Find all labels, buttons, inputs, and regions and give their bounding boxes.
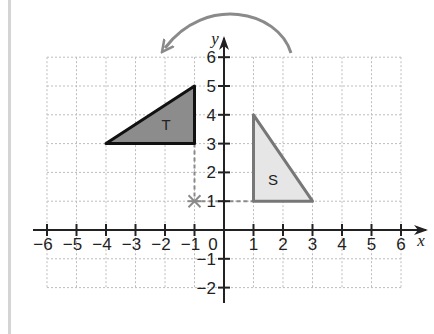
svg-text:6: 6 <box>207 48 216 67</box>
svg-text:4: 4 <box>207 106 216 125</box>
svg-text:6: 6 <box>396 235 405 254</box>
triangle-s-label: S <box>268 171 278 188</box>
svg-text:1: 1 <box>249 235 258 254</box>
svg-text:−2: −2 <box>151 235 170 254</box>
svg-text:−4: −4 <box>92 235 111 254</box>
svg-text:5: 5 <box>207 77 216 96</box>
rotation-arrow <box>165 14 291 53</box>
svg-text:−6: −6 <box>33 235 52 254</box>
svg-text:−2: −2 <box>197 279 216 298</box>
svg-text:5: 5 <box>367 235 376 254</box>
x-axis-label: x <box>416 231 425 250</box>
svg-text:3: 3 <box>308 235 317 254</box>
svg-text:−5: −5 <box>63 235 82 254</box>
coordinate-diagram: T S −6 −5 −4 − <box>0 0 434 334</box>
svg-text:3: 3 <box>207 135 216 154</box>
svg-text:2: 2 <box>278 235 287 254</box>
svg-text:2: 2 <box>207 163 216 182</box>
triangle-t-label: T <box>161 116 170 133</box>
x-tick-labels: −6 −5 −4 −3 −2 −1 1 2 3 4 5 6 <box>33 235 405 254</box>
svg-text:−3: −3 <box>122 235 141 254</box>
svg-text:1: 1 <box>207 192 216 211</box>
svg-text:4: 4 <box>337 235 346 254</box>
triangle-s <box>254 115 313 201</box>
svg-text:−1: −1 <box>197 250 216 269</box>
y-axis-label: y <box>209 29 219 48</box>
